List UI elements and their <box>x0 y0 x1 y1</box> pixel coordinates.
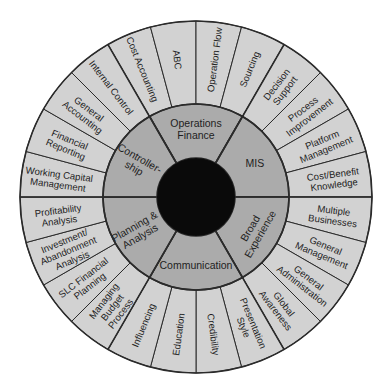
category-label-operations-finance: OperationsFinance <box>170 117 221 141</box>
category-label-communication: Communication <box>160 259 233 271</box>
label-line: Finance <box>177 129 215 141</box>
label-line: MIS <box>246 157 265 169</box>
category-label-mis: MIS <box>246 157 265 169</box>
center-core <box>157 158 235 236</box>
label-line: Operations <box>170 117 221 129</box>
label-line: Communication <box>160 259 233 271</box>
competency-wheel: Cost AccountingABCOperation FlowSourcing… <box>0 0 389 387</box>
